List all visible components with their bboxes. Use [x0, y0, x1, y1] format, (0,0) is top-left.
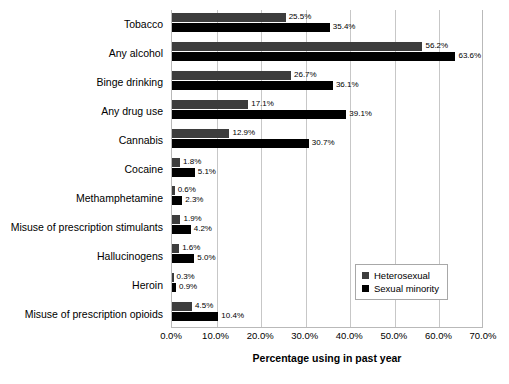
bar-minority: [172, 52, 455, 61]
bar-value-label: 17.1%: [251, 99, 274, 108]
bar-value-label: 4.2%: [194, 224, 212, 233]
bar-value-label: 30.7%: [312, 138, 335, 147]
bar-minority: [172, 254, 194, 263]
bar-minority: [172, 283, 176, 292]
bar-row: 17.1%39.1%: [172, 97, 482, 126]
category-axis-labels: TobaccoAny alcoholBinge drinkingAny drug…: [0, 10, 167, 328]
bar-hetero: [172, 302, 192, 311]
bar-minority: [172, 139, 309, 148]
bar-row: 4.5%10.4%: [172, 299, 482, 328]
bar-hetero: [172, 42, 422, 51]
bar-value-label: 5.1%: [198, 167, 216, 176]
bar-value-label: 35.4%: [333, 22, 356, 31]
x-axis-tick-label: 70.0%: [470, 330, 497, 342]
category-label: Cocaine: [124, 163, 163, 175]
x-axis-tick-label: 30.0%: [291, 330, 318, 342]
category-label: Binge drinking: [96, 76, 163, 88]
bar-value-label: 1.8%: [183, 157, 201, 166]
bar-hetero: [172, 71, 291, 80]
x-axis-tick-label: 40.0%: [336, 330, 363, 342]
bar-value-label: 10.4%: [221, 311, 244, 320]
category-label: Tobacco: [124, 18, 163, 30]
legend-label-heterosexual: Heterosexual: [374, 270, 430, 281]
bar-value-label: 56.2%: [425, 41, 448, 50]
bar-value-label: 25.5%: [289, 12, 312, 21]
legend-swatch-icon-heterosexual: [362, 272, 369, 279]
x-axis-ticks: 0.0%10.0%20.0%30.0%40.0%50.0%60.0%70.0%: [171, 330, 483, 346]
x-axis-title: Percentage using in past year: [171, 352, 483, 364]
bar-row: 25.5%35.4%: [172, 10, 482, 39]
legend-item-heterosexual: Heterosexual: [362, 269, 439, 282]
x-axis-tick-label: 50.0%: [380, 330, 407, 342]
bar-value-label: 39.1%: [349, 109, 372, 118]
bar-hetero: [172, 186, 175, 195]
bar-hetero: [172, 215, 180, 224]
category-label: Misuse of prescription opioids: [25, 308, 163, 320]
category-label: Heroin: [132, 279, 163, 291]
bar-value-label: 0.3%: [177, 272, 195, 281]
legend-label-sexual-minority: Sexual minority: [374, 283, 439, 294]
legend: Heterosexual Sexual minority: [355, 264, 448, 300]
bar-value-label: 5.0%: [197, 253, 215, 262]
x-axis-tick-label: 10.0%: [202, 330, 229, 342]
bar-row: 0.6%2.3%: [172, 183, 482, 212]
category-label: Methamphetamine: [76, 192, 163, 204]
bar-minority: [172, 225, 191, 234]
bar-value-label: 1.6%: [182, 243, 200, 252]
category-label: Cannabis: [119, 134, 163, 146]
bar-value-label: 0.9%: [179, 282, 197, 291]
bar-minority: [172, 81, 333, 90]
bar-hetero: [172, 273, 174, 282]
bar-value-label: 1.9%: [183, 214, 201, 223]
category-label: Hallucinogens: [97, 250, 163, 262]
bar-chart: TobaccoAny alcoholBinge drinkingAny drug…: [0, 0, 509, 384]
x-axis-tick-label: 0.0%: [160, 330, 182, 342]
category-label: Any alcohol: [109, 47, 163, 59]
bar-minority: [172, 196, 182, 205]
bar-value-label: 63.6%: [458, 51, 481, 60]
bar-minority: [172, 312, 218, 321]
bar-minority: [172, 23, 330, 32]
bar-minority: [172, 168, 195, 177]
bar-hetero: [172, 244, 179, 253]
bar-row: 26.7%36.1%: [172, 68, 482, 97]
legend-item-sexual-minority: Sexual minority: [362, 282, 439, 295]
bar-row: 1.9%4.2%: [172, 212, 482, 241]
category-label: Misuse of prescription stimulants: [11, 221, 163, 233]
bar-hetero: [172, 100, 248, 109]
bar-hetero: [172, 13, 286, 22]
category-label: Any drug use: [101, 105, 163, 117]
bar-value-label: 0.6%: [178, 185, 196, 194]
bar-value-label: 12.9%: [232, 128, 255, 137]
bar-value-label: 36.1%: [336, 80, 359, 89]
bar-value-label: 2.3%: [185, 195, 203, 204]
legend-swatch-icon-sexual-minority: [362, 285, 369, 292]
bar-value-label: 4.5%: [195, 301, 213, 310]
bar-minority: [172, 110, 346, 119]
bar-hetero: [172, 129, 229, 138]
bar-row: 1.8%5.1%: [172, 155, 482, 184]
bar-value-label: 26.7%: [294, 70, 317, 79]
x-axis-tick-label: 60.0%: [425, 330, 452, 342]
bar-row: 12.9%30.7%: [172, 126, 482, 155]
bar-row: 56.2%63.6%: [172, 39, 482, 68]
bar-hetero: [172, 158, 180, 167]
x-axis-tick-label: 20.0%: [247, 330, 274, 342]
